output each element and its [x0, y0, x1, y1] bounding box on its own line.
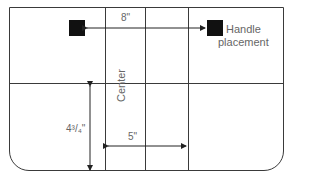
- handle-spacing-label: 8": [121, 13, 130, 23]
- center-label: Center: [116, 69, 127, 102]
- handle-caption-line1: Handle: [226, 24, 261, 35]
- width-dimension-label: 5": [128, 132, 137, 142]
- height-dimension-label: 4³/₄": [66, 124, 85, 134]
- handle-caption-line2: placement: [218, 37, 269, 48]
